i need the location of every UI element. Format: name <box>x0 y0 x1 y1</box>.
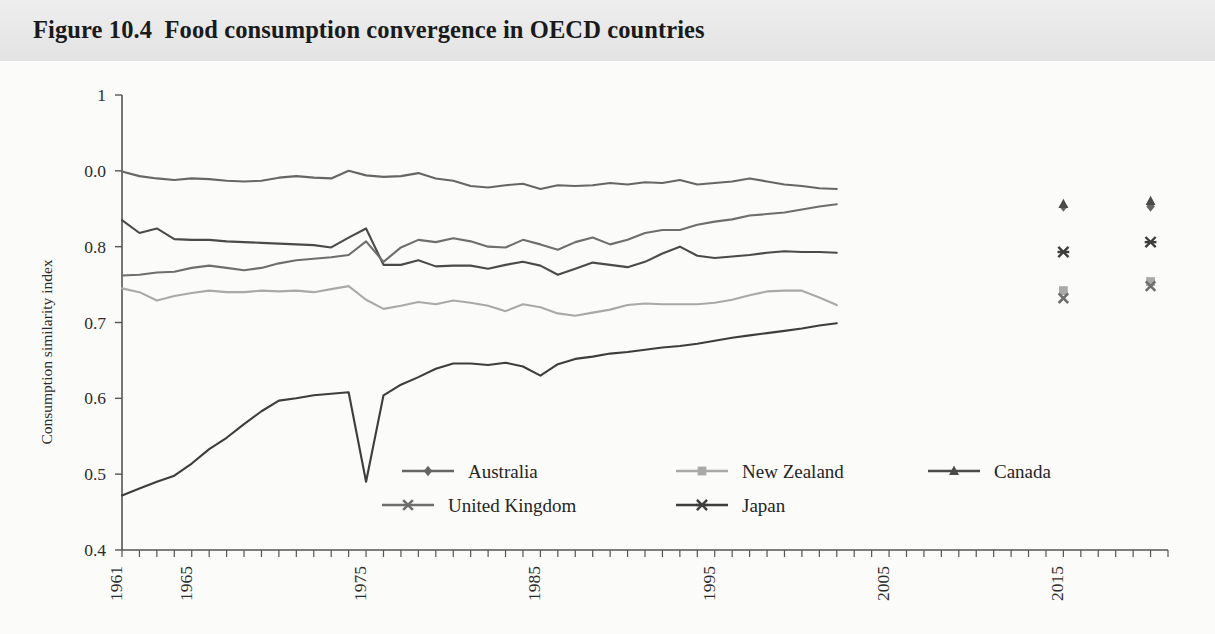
series-line-australia <box>122 171 837 189</box>
legend-item-australia[interactable]: Australia <box>402 461 538 482</box>
legend-label: Japan <box>742 495 786 516</box>
square-marker-icon-legend <box>698 467 707 476</box>
triangle-marker-icon-canada <box>1058 199 1068 208</box>
x-axis-ticks <box>122 550 1168 557</box>
figure-title-band: Figure 10.4 Food consumption convergence… <box>0 0 1215 62</box>
line-chart-svg: 0.40.50.60.70.80.01 19611965197519851995… <box>0 62 1215 634</box>
x-axis-tick-label: 1995 <box>699 566 719 601</box>
x-axis-tick-label: 1985 <box>524 566 544 601</box>
x-axis-tick-label: 1961 <box>106 566 126 601</box>
series-line-united-kingdom <box>122 204 837 275</box>
legend-item-united-kingdom[interactable]: United Kingdom <box>382 495 576 516</box>
x-axis-tick-label: 2005 <box>873 566 893 601</box>
page-title: Figure 10.4 Food consumption convergence… <box>33 16 705 44</box>
series-line-canada <box>122 220 837 275</box>
series-line-new-zealand <box>122 286 837 316</box>
chart-isolated-markers <box>1058 196 1157 303</box>
triangle-marker-icon-canada <box>1146 196 1156 205</box>
legend-item-new-zealand[interactable]: New Zealand <box>676 461 844 482</box>
y-axis-ticks <box>115 95 122 550</box>
y-axis-tick-label: 1 <box>97 85 106 105</box>
y-axis-tick-label: 0.4 <box>84 540 106 560</box>
legend-item-japan[interactable]: Japan <box>676 495 786 516</box>
legend-label: Canada <box>994 461 1052 482</box>
legend-item-canada[interactable]: Canada <box>928 461 1052 482</box>
chart-series-lines <box>122 171 837 496</box>
chart-legend: AustraliaNew ZealandCanadaUnited Kingdom… <box>382 461 1052 516</box>
legend-label: United Kingdom <box>448 495 576 516</box>
x-axis-tick-label: 1965 <box>176 566 196 601</box>
legend-label: New Zealand <box>742 461 844 482</box>
y-axis-tick-label: 0.5 <box>84 464 106 484</box>
y-axis-tick-label: 0.0 <box>84 161 106 181</box>
asterisk-marker-icon-japan <box>1145 237 1157 247</box>
y-axis-title: Consumption similarity index <box>38 259 55 444</box>
y-axis-tick-label: 0.6 <box>84 388 106 408</box>
asterisk-marker-icon-legend <box>696 500 708 510</box>
y-axis-tick-label: 0.8 <box>84 237 106 257</box>
x-axis-tick-label: 2015 <box>1047 566 1067 601</box>
x-axis-tick-label: 1975 <box>350 566 370 601</box>
x-axis-tick-labels: 1961196519751985199520052015 <box>106 566 1067 601</box>
legend-label: Australia <box>468 461 538 482</box>
diamond-marker-icon-legend <box>424 466 433 476</box>
figure-root: Figure 10.4 Food consumption convergence… <box>0 0 1215 634</box>
chart-plot-area: 0.40.50.60.70.80.01 19611965197519851995… <box>0 62 1215 634</box>
y-axis-tick-label: 0.7 <box>84 313 106 333</box>
y-axis-tick-labels: 0.40.50.60.70.80.01 <box>84 85 106 560</box>
asterisk-marker-icon-japan <box>1058 247 1070 257</box>
